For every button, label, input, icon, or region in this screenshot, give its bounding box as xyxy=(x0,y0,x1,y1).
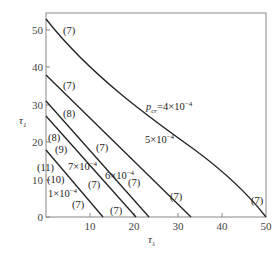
x-tick-20: 20 xyxy=(129,220,141,232)
eq-num: (7) xyxy=(63,80,76,92)
eq-num: (7) xyxy=(170,191,183,203)
x-tick-30: 30 xyxy=(173,220,185,232)
eq-num: (8) xyxy=(48,132,61,144)
y-tick-20: 20 xyxy=(32,136,44,148)
curve-6e-4 xyxy=(46,101,149,217)
eq-num: (7) xyxy=(128,177,141,189)
label-1e-4: 1×10−4 xyxy=(48,187,78,199)
x-tick-10: 10 xyxy=(85,220,97,232)
eq-num: (7) xyxy=(72,199,85,211)
x-axis-label: τλ xyxy=(148,233,155,248)
eq-num: (7) xyxy=(63,25,76,37)
y-tick-40: 40 xyxy=(32,61,44,73)
eq-num: (7) xyxy=(88,179,101,191)
y-axis-label: τ1 xyxy=(19,114,26,129)
y-tick-30: 30 xyxy=(32,99,44,111)
eq-num: (7) xyxy=(96,142,109,154)
label-pcr: pcr=4×10−4 xyxy=(145,100,193,115)
chart: 0 10 20 30 40 50 10 20 30 40 50 τ1 τλ pc… xyxy=(0,0,280,256)
y-tick-0: 0 xyxy=(38,211,44,223)
curves xyxy=(46,19,266,217)
x-tick-50: 50 xyxy=(261,220,273,232)
eq-num: (7) xyxy=(251,195,264,207)
eq-num: (11) xyxy=(37,162,55,174)
curve-4e-4 xyxy=(46,19,266,217)
x-tick-40: 40 xyxy=(217,220,229,232)
y-tick-10: 10 xyxy=(32,174,44,186)
plot-frame xyxy=(46,13,266,217)
eq-num: (8) xyxy=(63,108,76,120)
eq-num: (7) xyxy=(110,205,123,217)
label-7e-4: 7×10−4 xyxy=(68,160,98,172)
eq-num: (10) xyxy=(47,174,65,186)
eq-num: (9) xyxy=(55,144,68,156)
y-tick-50: 50 xyxy=(32,24,44,36)
label-5e-4: 5×10−4 xyxy=(145,133,175,145)
